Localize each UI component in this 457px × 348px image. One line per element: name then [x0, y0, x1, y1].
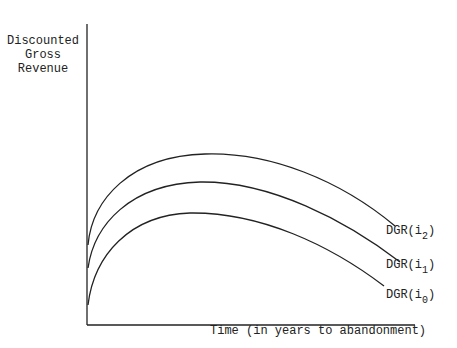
label-suffix: ) [428, 224, 435, 238]
label-base: DGR(i [386, 258, 422, 272]
label-suffix: ) [428, 288, 435, 302]
label-dgr-i1: DGR(i1) [386, 258, 435, 276]
label-base: DGR(i [386, 288, 422, 302]
curve-dgr-i1 [88, 182, 400, 268]
x-axis-label: Time (in years to abandonment) [210, 324, 426, 338]
label-dgr-i0: DGR(i0) [386, 288, 435, 306]
curve-dgr-i0 [88, 213, 384, 305]
label-base: DGR(i [386, 224, 422, 238]
label-dgr-i2: DGR(i2) [386, 224, 435, 242]
label-suffix: ) [428, 258, 435, 272]
